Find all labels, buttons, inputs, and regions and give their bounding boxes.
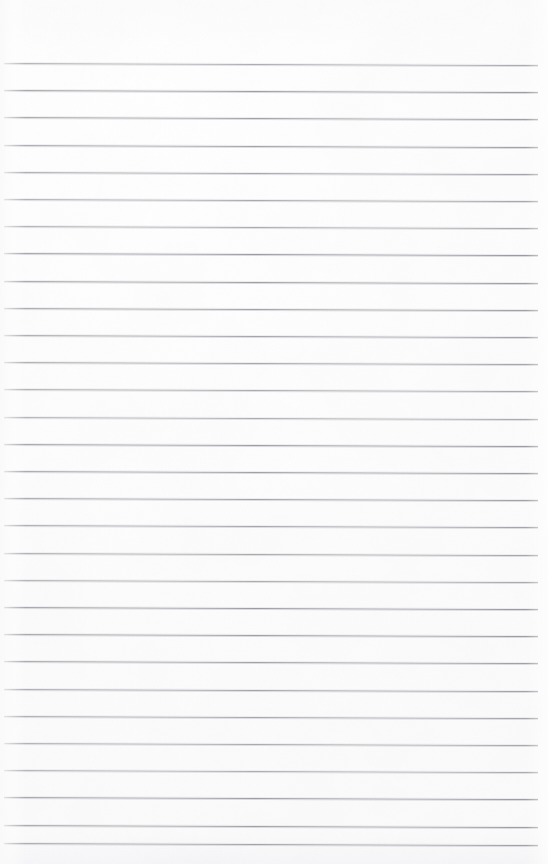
ruling-line bbox=[4, 661, 538, 664]
ruling-line bbox=[4, 253, 538, 256]
ruling-line bbox=[4, 90, 538, 93]
ruling-line bbox=[4, 553, 538, 556]
ruling-lines bbox=[0, 0, 548, 864]
ruling-line bbox=[4, 471, 538, 474]
ruling-line bbox=[4, 281, 538, 284]
ruling-line bbox=[4, 743, 538, 746]
ruling-line bbox=[4, 172, 538, 175]
ruling-line bbox=[4, 689, 538, 692]
ruling-line bbox=[4, 498, 538, 501]
ruling-line bbox=[4, 335, 538, 338]
ruling-line bbox=[4, 199, 538, 202]
ruling-line bbox=[4, 770, 538, 773]
ruling-line bbox=[4, 525, 538, 528]
ruling-line bbox=[4, 63, 538, 66]
ruling-line bbox=[4, 825, 538, 828]
ruling-line bbox=[4, 308, 538, 311]
scanned-page bbox=[0, 0, 548, 864]
ruling-line bbox=[4, 362, 538, 365]
ruling-line bbox=[4, 117, 538, 120]
ruling-line bbox=[4, 145, 538, 148]
ruling-line bbox=[4, 716, 538, 719]
ruling-line bbox=[4, 797, 538, 800]
ruling-line bbox=[4, 444, 538, 447]
ruling-line bbox=[4, 417, 538, 420]
ruling-line bbox=[4, 634, 538, 637]
ruling-line bbox=[4, 226, 538, 229]
ruling-line bbox=[4, 389, 538, 392]
ruling-line bbox=[4, 843, 538, 846]
ruling-line bbox=[4, 580, 538, 583]
ruling-line bbox=[4, 607, 538, 610]
